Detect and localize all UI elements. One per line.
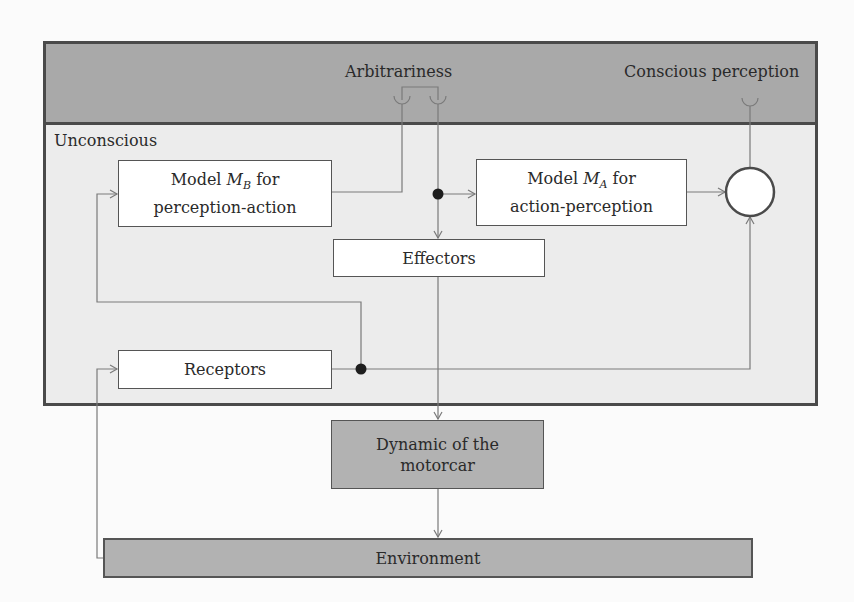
conscious-region xyxy=(43,41,818,125)
model-ma-subtitle: action-perception xyxy=(510,196,653,217)
effectors-block: Effectors xyxy=(333,239,545,277)
receptors-label: Receptors xyxy=(184,359,266,380)
unconscious-label: Unconscious xyxy=(54,131,157,150)
model-mb-prefix: Model xyxy=(171,170,227,189)
effectors-label: Effectors xyxy=(402,248,475,269)
environment-block: Environment xyxy=(103,538,753,578)
motorcar-dynamics-block: Dynamic of the motorcar xyxy=(331,420,544,489)
arbitrariness-label: Arbitrariness xyxy=(345,62,452,81)
model-mb-symbol: M xyxy=(227,170,243,189)
model-mb-suffix: for xyxy=(251,170,279,189)
model-ma-block: Model MA for action-perception xyxy=(476,159,687,226)
environment-label: Environment xyxy=(375,548,480,569)
model-mb-block: Model MB for perception-action xyxy=(118,160,332,227)
model-ma-suffix: for xyxy=(607,169,635,188)
model-mb-subscript: B xyxy=(243,180,251,193)
model-mb-subtitle: perception-action xyxy=(154,197,297,218)
model-ma-prefix: Model xyxy=(527,169,583,188)
receptors-block: Receptors xyxy=(118,350,332,389)
motorcar-line1: Dynamic of the xyxy=(376,434,499,455)
motorcar-line2: motorcar xyxy=(376,455,499,476)
conscious-perception-label: Conscious perception xyxy=(624,62,799,81)
model-ma-title: Model MA for xyxy=(510,168,653,195)
model-mb-title: Model MB for xyxy=(154,169,297,196)
model-ma-symbol: M xyxy=(583,169,599,188)
